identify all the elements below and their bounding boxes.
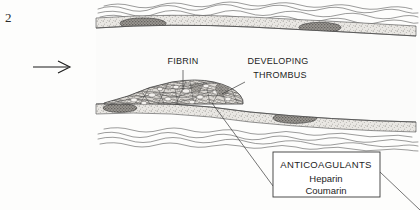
fibrin-label: FIBRIN	[167, 56, 198, 66]
developing-thrombus-label-line2: THROMBUS	[253, 70, 307, 80]
anticoagulant-heparin: Heparin	[309, 173, 342, 184]
figure-number: 2	[5, 10, 12, 25]
anticoagulant-coumarin: Coumarin	[305, 185, 346, 196]
anticoagulant-leader-line-right	[380, 172, 420, 210]
anticoagulants-title: ANTICOAGULANTS	[280, 159, 371, 170]
blood-flow-arrow	[33, 61, 70, 73]
developing-thrombus-label-line1: DEVELOPING	[247, 56, 308, 66]
bottom-wall-fibrous-layer	[98, 128, 418, 151]
figure-container: 2 FIBRIN DEVELOPING THROMBUS ANTICOAGULA…	[0, 0, 420, 210]
vessel-thrombus-illustration: 2 FIBRIN DEVELOPING THROMBUS ANTICOAGULA…	[0, 0, 420, 210]
